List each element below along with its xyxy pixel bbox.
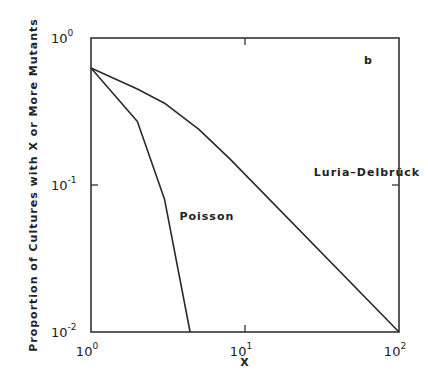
annotations: Luria–DelbrückPoisson [179,166,420,223]
series-line-poisson [91,68,190,332]
y-tick-label: 10-1 [51,175,77,193]
series-layer [91,68,399,332]
series-line-luria-delbr-ck [91,68,399,332]
panel-label: b [364,54,373,67]
series-label: Poisson [179,210,234,223]
plot-frame [91,38,399,332]
x-tick-label: 102 [384,341,406,359]
y-tick-label: 10-2 [51,322,77,340]
axis-ticks [91,38,399,332]
y-tick-label: 100 [51,28,74,46]
x-axis-title: X [240,356,249,369]
y-axis-title: Proportion of Cultures with X or More Mu… [27,18,40,352]
x-tick-label: 100 [76,341,99,359]
chart: 10010110210010-110-2 Luria–DelbrückPoiss… [0,0,428,385]
series-label: Luria–Delbrück [314,166,420,179]
axis-tick-labels: 10010110210010-110-2 [51,28,406,359]
